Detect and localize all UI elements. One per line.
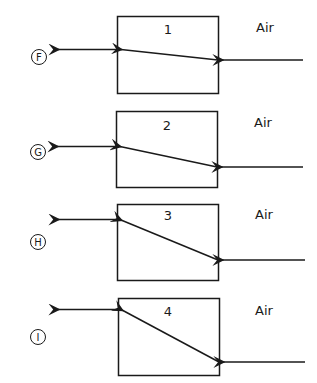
refracted-ray-2 <box>120 147 217 168</box>
panel-4: 4 Air I <box>31 299 306 376</box>
option-label-g: G <box>34 147 42 158</box>
medium-label-1: Air <box>256 20 275 35</box>
block-number-1: 1 <box>164 22 172 37</box>
block-number-3: 3 <box>164 208 172 223</box>
option-label-f: F <box>36 52 42 63</box>
panel-1: 1 Air F <box>32 17 304 94</box>
refraction-diagram: 1 Air F 2 Air G 3 Air H 4 Air I <box>0 0 317 383</box>
medium-label-4: Air <box>255 303 274 318</box>
refracted-ray-3 <box>121 220 218 260</box>
medium-label-3: Air <box>255 207 274 222</box>
block-number-4: 4 <box>164 304 172 319</box>
panel-2: 2 Air G <box>31 112 304 188</box>
option-label-i: I <box>37 332 40 343</box>
panel-3: 3 Air H <box>31 205 306 281</box>
block-number-2: 2 <box>163 118 171 133</box>
refracted-ray-1 <box>121 50 218 61</box>
medium-label-2: Air <box>254 115 273 130</box>
option-label-h: H <box>34 237 42 248</box>
